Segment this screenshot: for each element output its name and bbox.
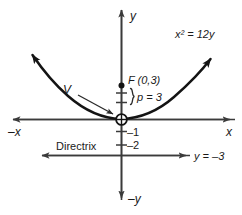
vertex-leader-line xyxy=(78,95,113,114)
parabola-right-arm xyxy=(121,59,211,119)
parabola-left-arm xyxy=(33,55,122,119)
directrix-label: Directrix xyxy=(56,140,97,152)
p-value-label: p = 3 xyxy=(136,91,163,103)
y-tick-label-minus-one: –1 xyxy=(127,126,139,138)
x-axis-negative-label: –x xyxy=(7,125,22,139)
focus-point-dot xyxy=(119,83,125,89)
x-axis-positive-label: x xyxy=(225,125,233,139)
vertex-marker xyxy=(116,114,127,125)
directrix-equation-label: y = –3 xyxy=(193,150,225,162)
figure-canvas: y –y –x x –1 –2 x² = 12y F (0,3) V p = 3… xyxy=(0,0,242,215)
y-axis-positive-label: y xyxy=(129,9,137,23)
y-tick-label-minus-two: –2 xyxy=(127,139,139,151)
p-distance-brace xyxy=(131,89,135,105)
parabola-figure: y –y –x x –1 –2 x² = 12y F (0,3) V p = 3… xyxy=(0,0,242,215)
y-axis-negative-label: –y xyxy=(127,192,142,206)
equation-label: x² = 12y xyxy=(174,28,216,40)
vertex-label: V xyxy=(63,83,72,97)
focus-label: F (0,3) xyxy=(128,74,161,86)
